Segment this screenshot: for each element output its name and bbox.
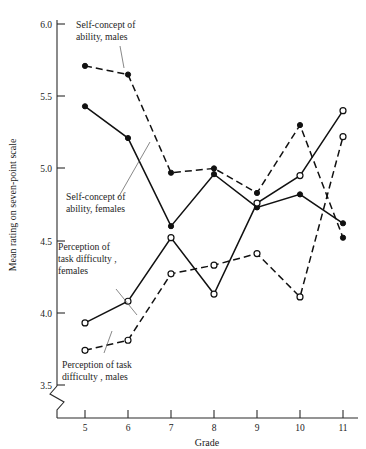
y-tick-label-4-5: 4.5 <box>40 237 52 247</box>
data-point <box>211 291 217 297</box>
x-tick-label-9: 9 <box>255 423 260 433</box>
annotation-a1-line2: ability, males <box>76 31 128 42</box>
data-point <box>340 221 345 226</box>
x-axis-ticks <box>85 410 343 418</box>
series-2 <box>82 108 346 326</box>
y-tick-label-6-0: 6.0 <box>40 20 52 30</box>
x-axis-title: Grade <box>195 437 220 448</box>
annotation-self-concept-males: Self-concept of ability, males <box>76 19 136 42</box>
y-tick-label-3-5: 3.5 <box>40 381 52 391</box>
x-tick-label-10: 10 <box>295 423 305 433</box>
data-point <box>297 192 302 197</box>
chart-container: 6.0 5.5 5.0 4.5 4.0 3.5 5 6 7 8 9 10 11 … <box>0 0 366 449</box>
line-chart: 6.0 5.5 5.0 4.5 4.0 3.5 5 6 7 8 9 10 11 … <box>0 0 366 449</box>
data-point <box>168 224 173 229</box>
data-point <box>297 173 303 179</box>
annotation-a3-line1: Perception of <box>58 241 111 252</box>
annotation-perception-females: Perception of task difficulty , females <box>58 241 117 276</box>
data-point <box>125 72 130 77</box>
data-point <box>82 347 88 353</box>
data-point <box>254 251 260 257</box>
y-tick-label-5-0: 5.0 <box>40 164 52 174</box>
x-tick-label-7: 7 <box>169 423 174 433</box>
annotation-a3-line3: females <box>58 265 88 276</box>
data-point <box>82 104 87 109</box>
x-tick-label-5: 5 <box>83 423 88 433</box>
data-point <box>254 200 260 206</box>
annotation-self-concept-females: Self-concept of ability, females <box>66 191 126 214</box>
y-tick-label-4-0: 4.0 <box>40 309 52 319</box>
data-point <box>211 166 216 171</box>
annotation-a2-line1: Self-concept of <box>66 191 126 202</box>
data-point <box>125 337 131 343</box>
data-point <box>297 122 302 127</box>
x-tick-label-11: 11 <box>338 423 347 433</box>
data-point <box>82 320 88 326</box>
y-axis-ticks <box>57 24 65 385</box>
annotation-a2-line2: ability, females <box>66 203 125 214</box>
data-point <box>340 134 346 140</box>
y-axis-break-zigzag <box>50 386 64 418</box>
x-tick-label-8: 8 <box>212 423 217 433</box>
annotation-perception-males: Perception of task difficulty , males <box>62 359 132 382</box>
y-axis-title: Mean rating on seven-point scale <box>7 138 18 271</box>
annotation-a3-line2: task difficulty , <box>58 253 117 264</box>
data-point <box>125 135 130 140</box>
annotation-a1-line1: Self-concept of <box>76 19 136 30</box>
annotation-a4-line2: difficulty , males <box>62 371 128 382</box>
data-point <box>340 235 345 240</box>
data-point <box>82 63 87 68</box>
data-point <box>254 190 259 195</box>
annotation-a4-line1: Perception of task <box>62 359 132 370</box>
x-tick-label-6: 6 <box>126 423 131 433</box>
data-point <box>168 170 173 175</box>
data-point <box>297 294 303 300</box>
data-point <box>168 271 174 277</box>
y-tick-label-5-5: 5.5 <box>40 92 52 102</box>
data-point <box>211 262 217 268</box>
data-point <box>340 108 346 114</box>
data-point <box>168 235 174 241</box>
data-point <box>211 172 216 177</box>
